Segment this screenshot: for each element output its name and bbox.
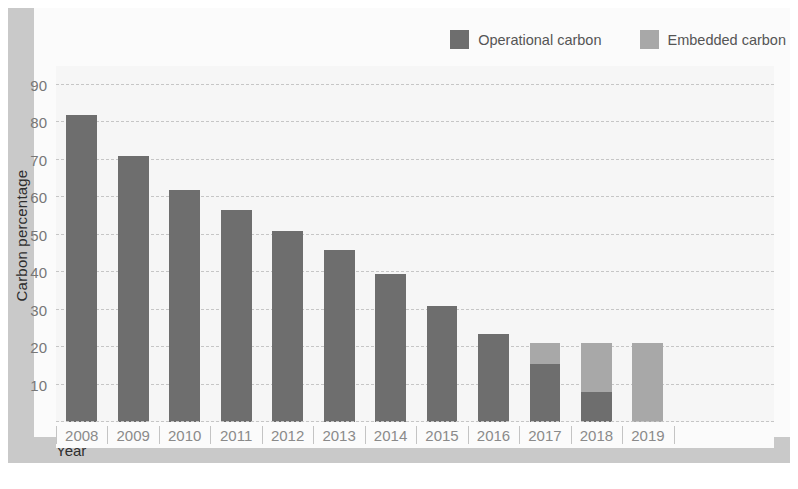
- plot-area: 102030405060708090: [56, 66, 774, 422]
- legend-swatch-icon: [450, 30, 469, 49]
- x-axis-tick-separator: [674, 426, 675, 444]
- bar-group: [56, 66, 774, 422]
- legend-label: Embedded carbon: [668, 32, 787, 48]
- bar-operational-carbon[interactable]: [530, 364, 561, 422]
- bar-column[interactable]: [169, 66, 200, 422]
- x-axis-tick-separator: [416, 426, 417, 444]
- bar-operational-carbon[interactable]: [272, 231, 303, 422]
- bar-operational-carbon[interactable]: [324, 250, 355, 422]
- bar-column[interactable]: [66, 66, 97, 422]
- x-axis-tick-label: 2018: [571, 422, 622, 448]
- x-axis-tick-label: 2010: [159, 422, 210, 448]
- x-axis-tick-separator: [571, 426, 572, 444]
- bar-operational-carbon[interactable]: [118, 156, 149, 422]
- bar-column[interactable]: [530, 66, 561, 422]
- x-axis-tick-label: 2009: [107, 422, 158, 448]
- x-axis-tick-separator: [262, 426, 263, 444]
- bar-column[interactable]: [478, 66, 509, 422]
- legend-item[interactable]: Embedded carbon: [640, 30, 787, 49]
- x-axis-tick-label: 2015: [416, 422, 467, 448]
- bar-column[interactable]: [427, 66, 458, 422]
- y-axis-tick-label: 60: [30, 189, 47, 206]
- bar-column[interactable]: [632, 66, 663, 422]
- x-axis-tick-label: 2016: [468, 422, 519, 448]
- bar-operational-carbon[interactable]: [221, 210, 252, 422]
- y-axis-tick-label: 10: [30, 376, 47, 393]
- bar-operational-carbon[interactable]: [478, 334, 509, 422]
- bar-column[interactable]: [272, 66, 303, 422]
- x-axis-tick-separator: [313, 426, 314, 444]
- x-axis-ticks: 2008200920102011201220132014201520162017…: [56, 422, 774, 448]
- bar-operational-carbon[interactable]: [66, 115, 97, 422]
- legend-item[interactable]: Operational carbon: [450, 30, 601, 49]
- bar-column[interactable]: [221, 66, 252, 422]
- y-axis-tick-label: 80: [30, 114, 47, 131]
- bar-column[interactable]: [118, 66, 149, 422]
- y-axis-tick-label: 90: [30, 76, 47, 93]
- x-axis-tick-label: 2011: [210, 422, 261, 448]
- bar-embedded-carbon[interactable]: [632, 343, 663, 422]
- x-axis-tick-separator: [468, 426, 469, 444]
- y-axis-tick-label: 70: [30, 151, 47, 168]
- x-axis-tick-label: 2017: [519, 422, 570, 448]
- legend-label: Operational carbon: [478, 32, 601, 48]
- y-axis-tick-label: 40: [30, 264, 47, 281]
- bar-column[interactable]: [375, 66, 406, 422]
- y-axis-tick-label: 50: [30, 226, 47, 243]
- bar-operational-carbon[interactable]: [581, 392, 612, 422]
- bar-column[interactable]: [581, 66, 612, 422]
- bar-column[interactable]: [324, 66, 355, 422]
- x-axis-tick-separator: [365, 426, 366, 444]
- x-axis-tick-separator: [56, 426, 57, 444]
- x-axis-tick-label: 2019: [622, 422, 673, 448]
- y-axis-tick-label: 30: [30, 301, 47, 318]
- bar-operational-carbon[interactable]: [427, 306, 458, 422]
- x-axis-tick-label: 2013: [313, 422, 364, 448]
- x-axis-tick-label: 2012: [262, 422, 313, 448]
- x-axis-tick-separator: [519, 426, 520, 444]
- x-axis-tick-separator: [210, 426, 211, 444]
- bar-operational-carbon[interactable]: [375, 274, 406, 422]
- chart-legend: Operational carbonEmbedded carbon: [34, 30, 790, 60]
- legend-items: Operational carbonEmbedded carbon: [422, 30, 786, 49]
- x-axis-tick-separator: [107, 426, 108, 444]
- legend-swatch-icon: [640, 30, 659, 49]
- y-axis-tick-label: 20: [30, 339, 47, 356]
- x-axis-tick-separator: [159, 426, 160, 444]
- x-axis-tick-label: 2014: [365, 422, 416, 448]
- x-axis-tick-separator: [622, 426, 623, 444]
- x-axis-tick-label: 2008: [56, 422, 107, 448]
- chart-figure: Carbon percentage Year Operational carbo…: [0, 0, 798, 489]
- bar-operational-carbon[interactable]: [169, 190, 200, 422]
